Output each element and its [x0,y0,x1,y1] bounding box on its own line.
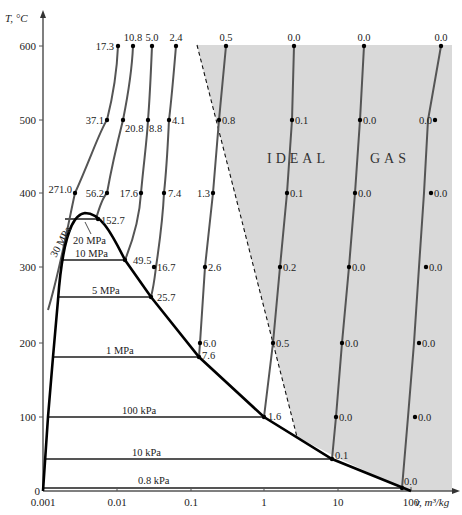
svg-text:0.0: 0.0 [418,412,431,423]
y-tick-400: 400 [20,187,37,199]
svg-text:0.5: 0.5 [219,32,232,43]
isobar-label-20mpa: 20 MPa [73,235,106,246]
svg-text:0.8: 0.8 [222,115,235,126]
svg-text:20.8: 20.8 [125,123,143,134]
svg-text:0.1: 0.1 [295,115,308,126]
svg-text:0.0: 0.0 [358,188,371,199]
svg-text:0.0: 0.0 [352,262,365,273]
region-label-ideal: IDEAL [267,151,329,166]
svg-text:2.4: 2.4 [169,32,183,43]
svg-text:10.8: 10.8 [124,32,142,43]
svg-text:0.5: 0.5 [276,338,289,349]
isobar-10mpa [125,46,152,260]
svg-text:152.7: 152.7 [101,215,125,226]
x-tick-01: 0.1 [184,496,198,508]
x-tick-001: 0.01 [107,496,126,508]
isobar-label-08kpa: 0.8 kPa [138,475,170,486]
x-tick-1: 1 [261,496,267,508]
isobar-label-10mpa: 10 MPa [75,248,108,259]
svg-text:4.1: 4.1 [172,115,185,126]
x-tick-10: 10 [333,496,345,508]
isobar-label-100kpa: 100 kPa [122,405,156,416]
svg-text:1.6: 1.6 [268,411,281,422]
isobar-20mpa-pointer [85,222,91,234]
svg-text:0.0: 0.0 [287,32,300,43]
svg-text:0.0: 0.0 [419,115,432,126]
isobar-30mpa [48,46,118,310]
svg-text:0.0: 0.0 [363,115,376,126]
svg-text:0.0: 0.0 [339,412,352,423]
svg-text:7.4: 7.4 [168,188,182,199]
chart: T, °C 600 500 400 300 200 100 0 0.001 0.… [0,0,462,515]
svg-text:0.0: 0.0 [434,32,447,43]
isobar-label-10kpa: 10 kPa [132,447,161,458]
svg-text:37.1: 37.1 [86,115,104,126]
y-axis [39,10,46,491]
svg-text:16.7: 16.7 [157,262,175,273]
isobar-label-5mpa: 5 MPa [92,285,120,296]
svg-text:5.0: 5.0 [145,32,158,43]
svg-text:6.0: 6.0 [203,338,216,349]
svg-text:25.7: 25.7 [157,292,175,303]
svg-text:49.5: 49.5 [133,255,151,266]
svg-text:0.0: 0.0 [422,338,435,349]
y-tick-500: 500 [20,114,37,126]
svg-text:0.1: 0.1 [335,450,348,461]
y-tick-200: 200 [20,337,37,349]
svg-text:8.8: 8.8 [149,123,162,134]
svg-text:17.6: 17.6 [120,188,138,199]
isobar-5mpa [151,46,176,297]
svg-text:2.6: 2.6 [208,262,221,273]
svg-text:7.6: 7.6 [202,350,215,361]
svg-text:0.1: 0.1 [290,188,303,199]
svg-text:56.2: 56.2 [86,188,104,199]
svg-text:0.0: 0.0 [429,262,442,273]
y-tick-100: 100 [20,411,37,423]
ideal-gas-region [197,45,452,491]
svg-text:0.0: 0.0 [404,476,417,487]
svg-text:17.3: 17.3 [96,41,114,52]
x-axis-title: v, m³/kg [415,496,450,508]
isobar-label-30mpa: 30 MPa [48,224,73,259]
y-axis-title: T, °C [5,12,28,24]
svg-text:1.3: 1.3 [197,188,210,199]
svg-text:0.0: 0.0 [434,188,447,199]
svg-text:0.0: 0.0 [357,32,370,43]
x-tick-0001: 0.001 [31,496,56,508]
isobar-label-1mpa: 1 MPa [106,345,134,356]
svg-text:0.2: 0.2 [283,262,296,273]
region-label-gas: GAS [370,151,410,166]
svg-text:0.0: 0.0 [345,338,358,349]
y-tick-300: 300 [20,261,37,273]
svg-text:271.0: 271.0 [48,184,72,195]
y-tick-600: 600 [20,40,37,52]
